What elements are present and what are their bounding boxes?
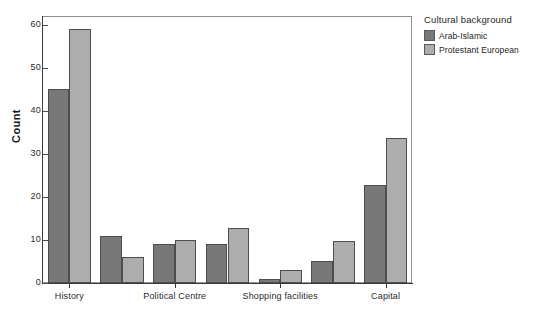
- legend-entry-label: Protestant European: [439, 45, 519, 55]
- bar-protestant-european-5: [333, 241, 355, 283]
- x-tick-label-2: Shopping facilities: [243, 291, 318, 301]
- legend-entry-0: Arab-Islamic: [424, 30, 536, 41]
- x-tick-mark-1: [175, 283, 176, 288]
- y-tick-label: 50: [31, 61, 41, 74]
- y-tick-label: 30: [31, 147, 41, 160]
- y-tick-label: 60: [31, 18, 41, 31]
- legend-entry-1: Protestant European: [424, 44, 536, 55]
- legend-entries: Arab-IslamicProtestant European: [424, 30, 536, 55]
- clipped-title: [120, 0, 420, 6]
- bar-arab-islamic-6: [364, 185, 386, 283]
- legend-title: Cultural background: [424, 14, 536, 25]
- bar-protestant-european-3: [228, 228, 250, 283]
- bar-arab-islamic-0: [48, 89, 70, 283]
- legend-entry-label: Arab-Islamic: [439, 31, 487, 41]
- bar-chart-figure: Count 0102030405060 HistoryPolitical Cen…: [0, 0, 537, 313]
- bar-protestant-european-1: [122, 257, 144, 283]
- x-tick-mark-2: [280, 283, 281, 288]
- y-tick-40: 40: [0, 111, 48, 112]
- bar-protestant-european-2: [175, 240, 197, 283]
- bar-protestant-european-0: [69, 29, 91, 283]
- y-tick-label: 40: [31, 104, 41, 117]
- x-tick-label-0: History: [55, 291, 84, 301]
- y-tick-label: 10: [31, 233, 41, 246]
- bars-layer: [43, 16, 412, 283]
- x-tick-label-3: Capital: [371, 291, 400, 301]
- bar-arab-islamic-5: [311, 261, 333, 283]
- x-axis-line: [42, 283, 413, 284]
- legend-swatch-icon: [424, 44, 435, 55]
- x-tick-mark-3: [386, 283, 387, 288]
- y-tick-label: 0: [36, 276, 41, 289]
- y-axis-label: Count: [10, 96, 22, 156]
- y-tick-50: 50: [0, 68, 48, 69]
- legend-swatch-icon: [424, 30, 435, 41]
- x-tick-label-1: Political Centre: [143, 291, 206, 301]
- y-tick-60: 60: [0, 25, 48, 26]
- y-tick-30: 30: [0, 154, 48, 155]
- y-tick-0: 0: [0, 283, 48, 284]
- bar-arab-islamic-2: [153, 244, 175, 283]
- bar-arab-islamic-4: [259, 279, 281, 283]
- y-tick-10: 10: [0, 240, 48, 241]
- bar-protestant-european-6: [386, 138, 408, 283]
- y-tick-label: 20: [31, 190, 41, 203]
- y-tick-mark: [43, 283, 48, 284]
- y-tick-20: 20: [0, 197, 48, 198]
- bar-arab-islamic-1: [100, 236, 122, 283]
- bar-protestant-european-4: [280, 270, 302, 283]
- legend: Cultural background Arab-IslamicProtesta…: [424, 14, 536, 58]
- bar-arab-islamic-3: [206, 244, 228, 283]
- x-tick-mark-0: [69, 283, 70, 288]
